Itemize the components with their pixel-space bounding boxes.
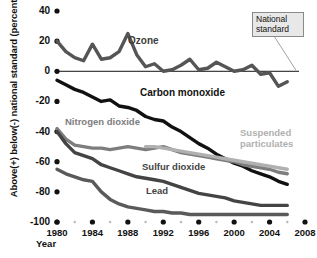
series-label-suspended-particulates: Suspended particulates [240, 128, 317, 149]
x-tick-label: 2000 [217, 227, 251, 238]
series-label-lead: Lead [146, 186, 168, 197]
y-tick-label: 0 [14, 65, 50, 76]
x-minor-tick-dot [74, 221, 76, 223]
x-minor-tick-dot [251, 221, 253, 223]
x-minor-tick-dot [144, 221, 146, 223]
y-tick-label: 20 [14, 35, 50, 46]
x-tick-dot [232, 219, 237, 224]
series-line-ozone [57, 34, 287, 87]
x-axis-title: Year [36, 238, 56, 249]
x-tick-label: 1992 [146, 227, 180, 238]
x-tick-dot [90, 219, 95, 224]
y-tick-label: -80 [14, 186, 50, 197]
x-minor-tick-dot [286, 221, 288, 223]
y-tick-label: -100 [14, 216, 50, 227]
x-minor-tick-dot [180, 221, 182, 223]
x-tick-label: 1996 [182, 227, 216, 238]
x-tick-dot [125, 219, 130, 224]
callout-leader-line [274, 36, 296, 70]
x-tick-dot [161, 219, 166, 224]
series-label-sulfur-dioxide: Sulfur dioxide [142, 162, 205, 173]
x-tick-label: 2008 [288, 227, 317, 238]
series-label-carbon-monoxide: Carbon monoxide [140, 88, 225, 99]
y-tick-label: -60 [14, 156, 50, 167]
national-standard-callout: National standard [252, 12, 304, 37]
x-tick-dot [267, 219, 272, 224]
y-tick-dot [54, 99, 59, 104]
series-line-lead [57, 169, 287, 214]
air-quality-trend-chart: Above(+) below(-) national standard (per… [0, 0, 317, 258]
y-tick-dot [54, 159, 59, 164]
y-tick-label: -20 [14, 95, 50, 106]
x-tick-label: 2004 [253, 227, 287, 238]
series-label-ozone: Ozone [128, 36, 159, 47]
x-tick-label: 1988 [111, 227, 145, 238]
x-minor-tick-dot [109, 221, 111, 223]
y-tick-label: -40 [14, 126, 50, 137]
x-tick-label: 1984 [75, 227, 109, 238]
y-tick-dot [54, 8, 59, 13]
y-tick-dot [54, 189, 59, 194]
x-tick-label: 1980 [40, 227, 74, 238]
x-tick-dot [54, 219, 59, 224]
y-tick-label: 40 [14, 5, 50, 16]
x-minor-tick-dot [215, 221, 217, 223]
x-tick-dot [302, 219, 307, 224]
series-label-nitrogen-dioxide: Nitrogen dioxide [65, 117, 140, 128]
x-tick-dot [196, 219, 201, 224]
